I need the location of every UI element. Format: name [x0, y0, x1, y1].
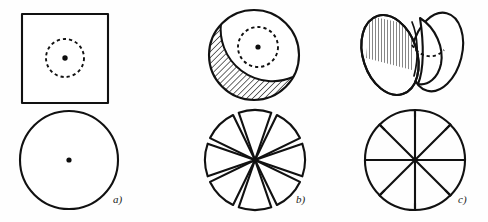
center-dot: [62, 55, 67, 60]
panel-label-c: c): [458, 193, 467, 206]
panel-b-circle-with-hatched-crescent: [209, 10, 299, 100]
panel-label-a: a): [113, 193, 123, 206]
panel-b-eight-petal-pinwheel: [205, 110, 305, 210]
panel-a-square-with-dashed-circle: [22, 14, 108, 103]
figure-canvas: a): [0, 0, 488, 222]
petal-group: [205, 110, 305, 210]
panel-label-b: b): [296, 193, 306, 206]
figure-container: a): [0, 0, 488, 222]
panel-a-plain-circle: [20, 111, 118, 209]
center-dot: [66, 157, 71, 162]
center-dot: [255, 44, 260, 49]
